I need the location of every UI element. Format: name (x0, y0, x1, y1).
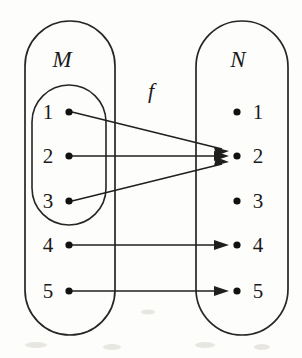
set-n-label-3: 3 (253, 189, 264, 213)
set-n-dot-2 (233, 152, 240, 159)
set-n-label-5: 5 (253, 279, 264, 303)
mapping-arrow-3-to-2 (72, 157, 229, 201)
set-n-label: N (229, 47, 247, 72)
function-label: f (148, 78, 157, 103)
set-n-dot-3 (233, 197, 240, 204)
set-m-dot-3 (65, 197, 72, 204)
set-m-label-3: 3 (43, 189, 54, 213)
set-m-label-4: 4 (43, 233, 54, 257)
set-n-dot-1 (233, 108, 240, 115)
scan-artifacts (25, 310, 270, 351)
mapping-arrow-1-to-2 (72, 112, 229, 156)
set-m-dot-5 (65, 287, 72, 294)
set-m-dot-2 (65, 152, 72, 159)
set-m-label: M (51, 47, 73, 72)
set-m-label-1: 1 (43, 100, 54, 124)
set-m-dot-4 (65, 241, 72, 248)
set-n-dot-4 (233, 241, 240, 248)
set-m-label-2: 2 (43, 144, 54, 168)
mapping-arrow-2-to-2 (72, 151, 229, 161)
set-n-label-4: 4 (253, 233, 264, 257)
set-n-label-1: 1 (253, 100, 264, 124)
set-n-dot-5 (233, 287, 240, 294)
set-n-label-2: 2 (253, 144, 264, 168)
set-m-label-5: 5 (43, 279, 54, 303)
set-m-dot-1 (65, 108, 72, 115)
function-mapping-diagram: M N f 1 2 (0, 0, 302, 358)
diagram-canvas: M N f 1 2 (0, 0, 302, 358)
mapping-arrow-4-to-4 (72, 240, 229, 250)
mapping-arrow-5-to-5 (72, 286, 229, 296)
